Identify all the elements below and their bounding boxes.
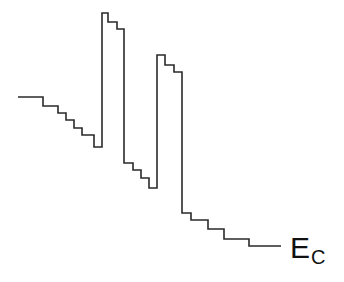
band-diagram: EC	[0, 0, 344, 282]
ec-label-subscript: C	[311, 246, 325, 268]
ec-label-main: E	[290, 231, 310, 264]
conduction-band-edge-line	[18, 13, 281, 246]
ec-label: EC	[290, 231, 325, 268]
